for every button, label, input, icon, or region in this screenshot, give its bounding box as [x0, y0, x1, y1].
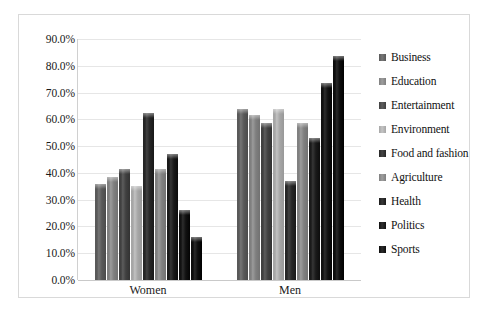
legend-swatch-icon: [379, 54, 386, 61]
y-tick-label: 0.0%: [51, 274, 75, 286]
legend-swatch-icon: [379, 222, 386, 229]
bar[interactable]: [249, 115, 260, 280]
legend-label: Education: [391, 75, 436, 87]
plot-wrapper: 90.0%80.0%70.0%60.0%50.0%40.0%30.0%20.0%…: [19, 15, 371, 299]
bar-fill: [119, 169, 130, 280]
legend-item[interactable]: Food and fashion: [379, 141, 488, 165]
x-axis-category-labels: WomenMen: [77, 283, 361, 298]
bar[interactable]: [191, 237, 202, 280]
bar-fill: [261, 123, 272, 280]
x-axis-label: Women: [77, 283, 219, 298]
legend-item[interactable]: Business: [379, 45, 488, 69]
bar[interactable]: [167, 154, 178, 280]
legend-item[interactable]: Education: [379, 69, 488, 93]
bar-fill: [143, 113, 154, 280]
bar[interactable]: [107, 177, 118, 280]
bar[interactable]: [95, 184, 106, 280]
legend-item[interactable]: Politics: [379, 213, 488, 237]
legend-label: Food and fashion: [391, 147, 468, 159]
bar-fill: [95, 184, 106, 280]
y-tick-label: 70.0%: [46, 87, 75, 99]
chart-legend: BusinessEducationEntertainmentEnvironmen…: [379, 45, 488, 261]
legend-swatch-icon: [379, 198, 386, 205]
legend-label: Agriculture: [391, 171, 442, 183]
legend-swatch-icon: [379, 78, 386, 85]
bar[interactable]: [333, 56, 344, 280]
bar[interactable]: [261, 123, 272, 280]
bar[interactable]: [309, 138, 320, 280]
legend-swatch-icon: [379, 174, 386, 181]
bar-fill: [309, 138, 320, 280]
bar-fill: [273, 109, 284, 280]
bar[interactable]: [179, 210, 190, 280]
legend-swatch-icon: [379, 126, 386, 133]
legend-item[interactable]: Health: [379, 189, 488, 213]
bar-fill: [285, 181, 296, 280]
y-axis-tick-labels: 90.0%80.0%70.0%60.0%50.0%40.0%30.0%20.0%…: [25, 15, 75, 299]
bar[interactable]: [143, 113, 154, 280]
bar-fill: [297, 123, 308, 280]
bar-fill: [191, 237, 202, 280]
bar-fill: [107, 177, 118, 280]
bar[interactable]: [131, 186, 142, 280]
y-tick-label: 30.0%: [46, 194, 75, 206]
bar[interactable]: [285, 181, 296, 280]
bar-group: [220, 39, 362, 280]
legend-item[interactable]: Entertainment: [379, 93, 488, 117]
legend-swatch-icon: [379, 150, 386, 157]
bar-fill: [167, 154, 178, 280]
x-axis-label: Men: [219, 283, 361, 298]
y-tick-label: 40.0%: [46, 167, 75, 179]
legend-label: Environment: [391, 123, 449, 135]
bar[interactable]: [237, 109, 248, 280]
legend-label: Sports: [391, 243, 420, 255]
bar[interactable]: [321, 83, 332, 280]
bar-fill: [237, 109, 248, 280]
bar-fill: [249, 115, 260, 280]
bar[interactable]: [155, 169, 166, 280]
legend-swatch-icon: [379, 246, 386, 253]
legend-label: Politics: [391, 219, 424, 231]
y-tick-label: 20.0%: [46, 220, 75, 232]
y-tick-label: 50.0%: [46, 140, 75, 152]
bar-fill: [131, 186, 142, 280]
plot-area: [77, 39, 361, 280]
bar[interactable]: [119, 169, 130, 280]
legend-label: Business: [391, 51, 431, 63]
chart-frame: 90.0%80.0%70.0%60.0%50.0%40.0%30.0%20.0%…: [18, 14, 470, 298]
bar[interactable]: [297, 123, 308, 280]
legend-label: Entertainment: [391, 99, 454, 111]
bar-fill: [179, 210, 190, 280]
y-tick-label: 10.0%: [46, 247, 75, 259]
bar[interactable]: [273, 109, 284, 280]
bar-fill: [321, 83, 332, 280]
legend-swatch-icon: [379, 102, 386, 109]
bar-groups: [78, 39, 361, 280]
legend-item[interactable]: Agriculture: [379, 165, 488, 189]
y-tick-label: 90.0%: [46, 33, 75, 45]
bar-fill: [333, 56, 344, 280]
y-tick-label: 80.0%: [46, 60, 75, 72]
axis-baseline: [78, 280, 361, 281]
legend-label: Health: [391, 195, 421, 207]
legend-item[interactable]: Sports: [379, 237, 488, 261]
bar-fill: [155, 169, 166, 280]
legend-item[interactable]: Environment: [379, 117, 488, 141]
y-tick-label: 60.0%: [46, 113, 75, 125]
bar-group: [78, 39, 220, 280]
